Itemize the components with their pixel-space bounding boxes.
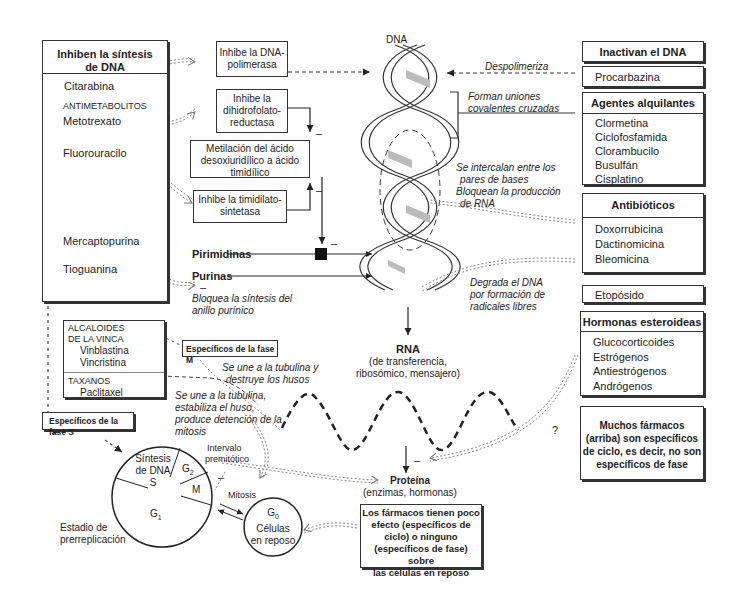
minus-sign: – xyxy=(200,280,206,294)
minus-sign: – xyxy=(414,453,420,467)
bloquea-anillo-purinico-note: Bloquea la síntesis del anillo purínico xyxy=(192,293,292,317)
antibioticos-box: Antibióticos Doxorrubicina Dactinomicina… xyxy=(582,193,704,273)
fase-s-label: Específicos de la fase S xyxy=(42,412,134,430)
minus-sign: – xyxy=(218,470,224,484)
drug-citarabina: Citarabina xyxy=(64,79,114,93)
vinca-section: ALCALOIDES DE LA VINCA Vinblastina Vincr… xyxy=(64,321,164,369)
ciclo-especificos-note: Muchos fármacos (arriba) son específicos… xyxy=(580,406,704,480)
drug-etoposido: Etopósido xyxy=(582,285,704,303)
antibioticos-header: Antibióticos xyxy=(583,194,703,218)
inhibe-dna-polimerasa-box: Inhibe la DNA- polimerasa xyxy=(216,41,288,77)
drug-mercaptopurina: Mercaptopurina xyxy=(63,234,139,248)
antibioticos-list: Doxorrubicina Dactinomicina Bleomicina xyxy=(583,218,703,267)
intervalo-premitotico-label: Intervalo premitótico xyxy=(205,443,249,465)
hormonas-list: Glucocorticoides Estrógenos Antiestrógen… xyxy=(581,332,703,393)
panel-title: Inhiben la síntesis de DNA xyxy=(43,41,167,74)
minus-sign: – xyxy=(331,236,337,250)
purinas-label: Purinas xyxy=(192,269,232,283)
drug-procarbazina: Procarbazina xyxy=(582,66,704,87)
question-mark: ? xyxy=(552,423,558,437)
tubulina-destruye-note: Se une a la tubulina y destruye los huso… xyxy=(222,362,318,386)
inhibe-timidilato-box: Inhibe la timidilato- sintetasa xyxy=(193,190,287,223)
inhibe-dihidrofolato-box: Inhibe la dihidrofolato- reductasa xyxy=(216,89,288,133)
drug-tioguanina: Tioguanina xyxy=(63,262,117,276)
minus-sign: – xyxy=(316,183,322,197)
phase-g0-label: G0 Células en reposo xyxy=(246,507,300,547)
metilacion-box: Metilación del ácido desoxiuridílico a á… xyxy=(190,140,310,178)
taxanos-section: TAXANOS Paclitaxel xyxy=(64,372,164,399)
pirimidinas-label: Pirimidinas xyxy=(192,247,251,261)
phase-g2-label: G2 xyxy=(182,463,194,479)
intercalan-label: Se intercalan entre los pares de bases B… xyxy=(456,162,561,210)
fase-m-label: Específicos de la fase M xyxy=(182,340,278,357)
protein-label-group: Proteína (enzimas, hormonas) xyxy=(350,475,470,499)
alquilantes-header: Agentes alquilantes xyxy=(583,93,703,114)
drug-metotrexato: Metotrexato xyxy=(63,114,121,128)
minus-sign: – xyxy=(316,126,322,140)
drug-fluorouracilo: Fluorouracilo xyxy=(63,146,127,160)
antimetabolitos-label: ANTIMETABOLITOS xyxy=(63,101,147,112)
hormonas-box: Hormonas esteroideas Glucocorticoides Es… xyxy=(580,311,704,396)
tubulina-estabiliza-note: Se une a la tubulina, estabiliza el huso… xyxy=(175,390,282,438)
estadio-prerreplicacion-label: Estadio de prerreplicación xyxy=(60,522,126,546)
phase-m-label: M xyxy=(192,484,200,496)
dna-helix-graphic xyxy=(360,45,460,290)
resting-cells-note: Los fármacos tienen poco efecto (específ… xyxy=(360,504,482,568)
hormonas-header: Hormonas esteroideas xyxy=(581,312,703,332)
inactivan-dna-header: Inactivan el DNA xyxy=(582,41,704,62)
alquilantes-box: Agentes alquilantes Clormetina Ciclofosf… xyxy=(582,92,704,185)
degrada-dna-label: Degrada el DNA por formación de radicale… xyxy=(470,277,545,313)
dna-label: DNA xyxy=(386,34,407,46)
vinca-taxanos-box: ALCALOIDES DE LA VINCA Vinblastina Vincr… xyxy=(63,320,165,398)
rna-label-group: RNA (de transferencia, ribosómico, mensa… xyxy=(338,343,478,380)
alquilantes-list: Clormetina Ciclofosfamida Clorambucilo B… xyxy=(583,114,703,186)
phase-s-label: Síntesis de DNA S xyxy=(130,453,176,489)
despolimeriza-label: Despolimeriza xyxy=(485,61,548,73)
phase-g1-label: G1 xyxy=(150,508,162,524)
forman-uniones-label: Forman uniones covalentes cruzadas xyxy=(468,91,559,115)
mitosis-label: Mitosis xyxy=(228,490,256,501)
